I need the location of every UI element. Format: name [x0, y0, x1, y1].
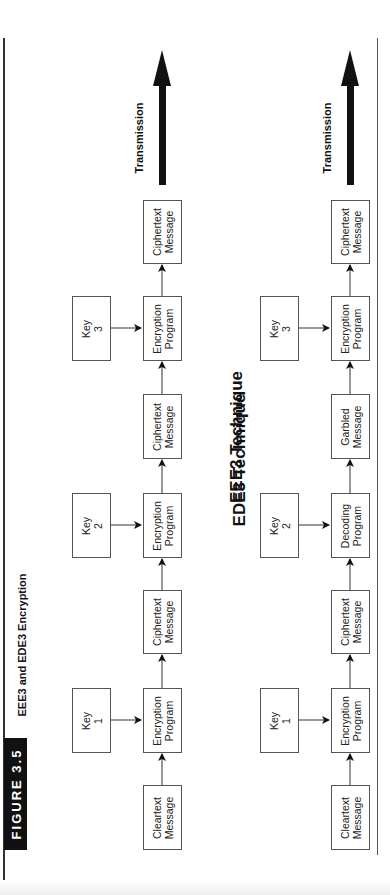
key-label: Key	[268, 319, 280, 337]
key-number: 2	[280, 523, 292, 529]
eee3-encryption-box-2: EncryptionProgram	[143, 493, 182, 558]
eee3-cleartext-box: CleartextMessage	[143, 785, 182, 850]
box-line-1: Cleartext	[339, 796, 351, 838]
ede3-cleartext-box: CleartextMessage	[331, 785, 370, 850]
ede3-garbled-box: GarbledMessage	[331, 394, 370, 459]
eee3-ciphertext-box-2: CiphertextMessage	[143, 394, 182, 459]
ede3-key-1-box: Key1	[260, 688, 299, 753]
box-line-1: Encryption	[151, 501, 163, 551]
box-line-1: Cleartext	[151, 796, 163, 838]
box-line-2: Program	[163, 505, 175, 545]
eee3-encryption-box-3: EncryptionProgram	[143, 296, 182, 361]
box-line-1: Encryption	[339, 696, 351, 746]
box-line-2: Message	[163, 796, 175, 839]
box-line-2: Program	[163, 308, 175, 348]
eee3-transmission-label: Transmission	[132, 93, 146, 183]
ede3-key-3-box: Key3	[260, 296, 299, 361]
ede3-encryption-box-1: EncryptionProgram	[331, 688, 370, 753]
box-line-2: Message	[351, 211, 363, 254]
box-line-1: Decoding	[339, 503, 351, 547]
box-line-2: Program	[351, 505, 363, 545]
box-line-2: Program	[163, 700, 175, 740]
key-label: Key	[80, 516, 92, 534]
page-edge-shade	[0, 880, 390, 895]
box-line-2: Message	[351, 405, 363, 448]
key-number: 3	[280, 326, 292, 332]
box-line-1: Garbled	[339, 408, 351, 445]
box-line-2: Message	[351, 796, 363, 839]
eee3-ciphertext-box-1: CiphertextMessage	[143, 590, 182, 654]
eee3-key-2-box: Key2	[72, 493, 111, 558]
box-line-1: Ciphertext	[151, 598, 163, 646]
ede3-encryption-box-2: EncryptionProgram	[331, 296, 370, 361]
box-line-1: Ciphertext	[339, 208, 351, 256]
box-line-1: Ciphertext	[151, 403, 163, 451]
ede3-ciphertext-box-2: CiphertextMessage	[331, 200, 370, 264]
ede3-decoding-box: DecodingProgram	[331, 493, 370, 558]
key-number: 1	[92, 718, 104, 724]
key-number: 3	[92, 326, 104, 332]
box-line-1: Encryption	[151, 696, 163, 746]
box-line-1: Encryption	[151, 304, 163, 354]
box-line-1: Ciphertext	[151, 208, 163, 256]
box-line-2: Program	[351, 700, 363, 740]
key-number: 1	[280, 718, 292, 724]
box-line-2: Message	[163, 211, 175, 254]
key-label: Key	[80, 711, 92, 729]
box-line-2: Message	[351, 601, 363, 644]
eee3-key-3-box: Key3	[72, 296, 111, 361]
eee3-key-1-box: Key1	[72, 688, 111, 753]
ede3-key-2-box: Key2	[260, 493, 299, 558]
eee3-ciphertext-box-3: CiphertextMessage	[143, 200, 182, 264]
key-number: 2	[92, 523, 104, 529]
key-label: Key	[80, 319, 92, 337]
key-label: Key	[268, 516, 280, 534]
box-line-2: Message	[163, 405, 175, 448]
ede3-ciphertext-box-1: CiphertextMessage	[331, 590, 370, 654]
box-line-1: Ciphertext	[339, 598, 351, 646]
key-label: Key	[268, 711, 280, 729]
box-line-2: Message	[163, 601, 175, 644]
box-line-2: Program	[351, 308, 363, 348]
ede3-heading-visible: EDE3 Technique	[230, 395, 250, 525]
box-line-1: Encryption	[339, 304, 351, 354]
eee3-encryption-box-1: EncryptionProgram	[143, 688, 182, 753]
ede3-transmission-label: Transmission	[320, 93, 334, 183]
